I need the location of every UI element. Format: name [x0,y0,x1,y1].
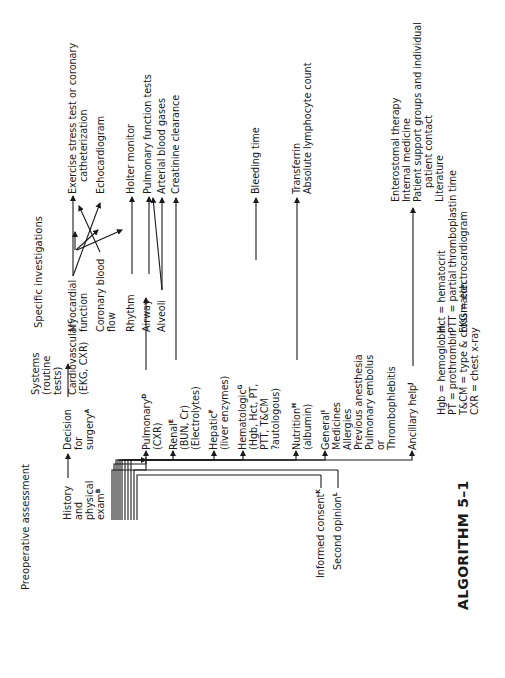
node-history-line: History [62,481,73,520]
header-preoperative-assessment: Preoperative assessment [20,464,31,590]
node-hematologic-label: Hematologic [237,389,248,450]
node-nutrition-label: Nutrition [291,408,302,450]
node-nutrition: NutritionH (albumin) [291,403,313,450]
node-general-item: Pulmonary embolus [364,354,375,450]
node-hepatic-label: Hepatic [208,413,219,450]
investigation-bleeding-time: Bleeding time [250,127,261,194]
node-renal-label: Renal [168,423,179,450]
node-general-item: Allergies [342,354,353,450]
node-renal-tests: (BUN, Cr) [179,386,190,450]
node-second-opinion: Second opinionL [332,492,343,570]
investigation-line: catheterization [78,43,89,194]
legend-entry: EKG = electrocardiogram [458,170,469,333]
node-decision-line: Decision [62,409,73,450]
node-pulmonary-label: Pulmonary [141,399,152,450]
branch-coronary-blood-flow: Coronary blood flow [95,259,117,332]
investigation-holter-monitor: Holter monitor [125,124,136,194]
node-hematologic: HematologicG (Hgb, Hct, PT, PTT, T&CM ?a… [237,384,281,450]
investigation-creatinine-clearance: Creatinine clearance [170,95,181,194]
node-informed-label: Informed consent [315,494,326,578]
node-ancillary-help: Ancillary helpJ [407,383,418,450]
node-general-item: Thrombophlebitis [386,354,397,450]
legend-entry: CXR = chest x-ray [469,282,480,415]
node-hepatic-tests: (liver enzymes) [219,376,230,450]
header-systems-line: (routine [41,353,52,396]
node-hematologic-tests: (Hgb, Hct, PT, [248,384,259,450]
node-decision-line: surgeryA [84,409,95,450]
investigation-line: Transferrin [291,63,302,194]
node-ancillary-label: Ancillary help [407,385,418,450]
investigation-line: patient contact [423,22,434,202]
node-informed-consent: Informed consentK [315,489,326,578]
investigation-exercise-stress-test: Exercise stress test or coronary cathete… [67,43,89,194]
investigation-line: Absolute lymphocyte count [302,63,313,194]
node-general-label: General [320,412,331,450]
branch-airway: Airway [141,299,152,332]
node-pulmonary-tests: (CXR) [152,394,163,450]
investigation-pulmonary-function-tests: Pulmonary function tests [142,74,153,194]
header-systems-line: tests) [52,353,63,396]
investigation-line: Exercise stress test or coronary [67,43,78,194]
node-cardiovascular-label: Cardiovascular [67,324,78,395]
node-general-item: Medicines [331,354,342,450]
node-hematologic-tests: PTT, T&CM [259,384,270,450]
node-general: GeneralI Medicines Allergies Previous an… [320,354,397,450]
investigation-echocardiogram: Echocardiogram [95,116,106,194]
branch-line: flow [106,259,117,332]
investigation-arterial-blood-gases: Arterial blood gases [156,98,167,194]
node-second-label: Second opinion [332,496,343,570]
legend-right: Hct = hematocrit PTT = partial thrombopl… [436,170,469,333]
node-hematologic-tests: ?autologous) [270,384,281,450]
branch-alveoli: Alveoli [156,300,167,332]
legend-entry: PTT = partial thromboplastin time [447,170,458,333]
node-history-line: and [73,481,84,520]
branch-line: Coronary blood [95,259,106,332]
branch-line: Myocardial [67,280,78,332]
branch-rhythm: Rhythm [125,294,136,332]
node-renal-tests: (Electrolytes) [190,386,201,450]
algorithm-title: ALGORITHM 5–1 [458,480,469,610]
node-decision-for-surgery: Decision for surgeryA [62,409,95,450]
investigation-line: Enterostomal therapy [390,22,401,202]
header-systems: Systems (routine tests) [30,353,63,396]
branch-myocardial-function: Myocardial function [67,280,89,332]
node-hepatic: HepaticF (liver enzymes) [208,376,230,450]
investigation-line: Internal medicine [401,22,412,202]
branch-line: function [78,280,89,332]
investigation-nutrition: Transferrin Absolute lymphocyte count [291,63,313,194]
header-systems-line: Systems [30,353,41,396]
node-history-line: examB [95,481,106,520]
node-general-item: Previous anesthesia [353,354,364,450]
node-decision-line: for [73,409,84,450]
legend-entry: Hct = hematocrit [436,170,447,333]
algorithm-page: Preoperative assessment Systems (routine… [0,0,505,678]
node-history-line: physical [84,481,95,520]
node-general-item: or [375,354,386,450]
node-pulmonary: PulmonaryD (CXR) [141,394,163,450]
investigation-line: Patient support groups and individual [412,22,423,202]
header-specific-investigations: Specific investigations [33,216,44,328]
node-nutrition-tests: (albumin) [302,403,313,450]
node-history-physical-exam: History and physical examB [62,481,106,520]
node-renal: RenalE (BUN, Cr) (Electrolytes) [168,386,201,450]
